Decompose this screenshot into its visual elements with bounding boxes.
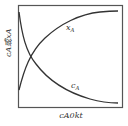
curve-label-xA: xA (66, 23, 75, 33)
curve-label-cA: cA (71, 81, 79, 91)
y-axis-label: cA或xA (2, 28, 13, 57)
chart: xA cA (0, 0, 128, 126)
x-axis-label: cA0kt (0, 111, 128, 120)
